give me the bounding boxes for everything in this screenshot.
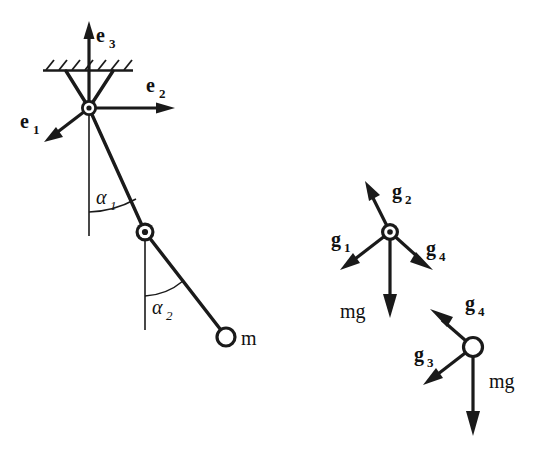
pivot-joint — [81, 100, 97, 116]
label-e3-subscript: 3 — [109, 36, 116, 51]
label-g2: g 2 — [392, 180, 412, 207]
label-g4-lower: g 4 — [465, 292, 485, 319]
label-g1-subscript: 1 — [344, 240, 351, 255]
label-g3: g 3 — [414, 343, 434, 370]
label-mass-m: m — [241, 327, 257, 349]
label-e3: e 3 — [96, 24, 116, 51]
right-diagram-group: g 2 g 1 g 4 mg g 4 g 3 — [331, 180, 515, 436]
label-g4-upper-subscript: 4 — [439, 249, 446, 264]
label-e2: e 2 — [146, 74, 166, 101]
label-alpha2-subscript: 2 — [166, 308, 173, 323]
elbow-joint — [136, 223, 155, 242]
label-g1: g 1 — [331, 228, 351, 255]
label-e2-subscript: 2 — [159, 86, 166, 101]
label-e1-subscript: 1 — [33, 122, 40, 137]
label-g2-symbol: g — [392, 180, 402, 203]
label-g3-subscript: 3 — [427, 355, 434, 370]
left-diagram-group: e 1 e 2 e 3 α 1 α 2 — [20, 21, 257, 349]
label-alpha1-subscript: 1 — [110, 198, 117, 213]
label-g1-symbol: g — [331, 228, 341, 251]
basis-vector-e1 — [44, 108, 89, 142]
label-alpha1: α 1 — [96, 186, 117, 213]
label-alpha1-symbol: α — [96, 186, 107, 208]
basis-vector-e2 — [89, 103, 175, 114]
label-g4-upper-symbol: g — [426, 237, 436, 260]
upper-force-node — [381, 223, 399, 241]
lower-force-node — [464, 338, 483, 357]
label-g4-lower-symbol: g — [465, 292, 475, 315]
mass-bob — [217, 328, 235, 346]
label-alpha2: α 2 — [152, 296, 173, 323]
figure-root: e 1 e 2 e 3 α 1 α 2 — [0, 0, 547, 463]
label-alpha2-symbol: α — [152, 296, 163, 318]
label-mg-upper: mg — [340, 300, 366, 323]
physics-diagram-canvas: e 1 e 2 e 3 α 1 α 2 — [0, 0, 547, 463]
label-e1-symbol: e — [20, 110, 29, 132]
label-mg-lower: mg — [489, 370, 515, 393]
label-g3-symbol: g — [414, 343, 424, 366]
upper-rod — [89, 108, 145, 232]
label-g2-subscript: 2 — [405, 192, 412, 207]
lower-rod — [145, 232, 224, 334]
label-e2-symbol: e — [146, 74, 155, 96]
force-vector-mg-lower — [466, 347, 480, 436]
label-g4-upper: g 4 — [426, 237, 446, 264]
angle-arc-alpha2 — [145, 281, 183, 296]
label-e1: e 1 — [20, 110, 40, 137]
basis-vector-e3 — [84, 21, 95, 108]
label-g4-lower-subscript: 4 — [478, 304, 485, 319]
label-e3-symbol: e — [96, 24, 105, 46]
force-vector-mg-upper — [383, 232, 397, 318]
